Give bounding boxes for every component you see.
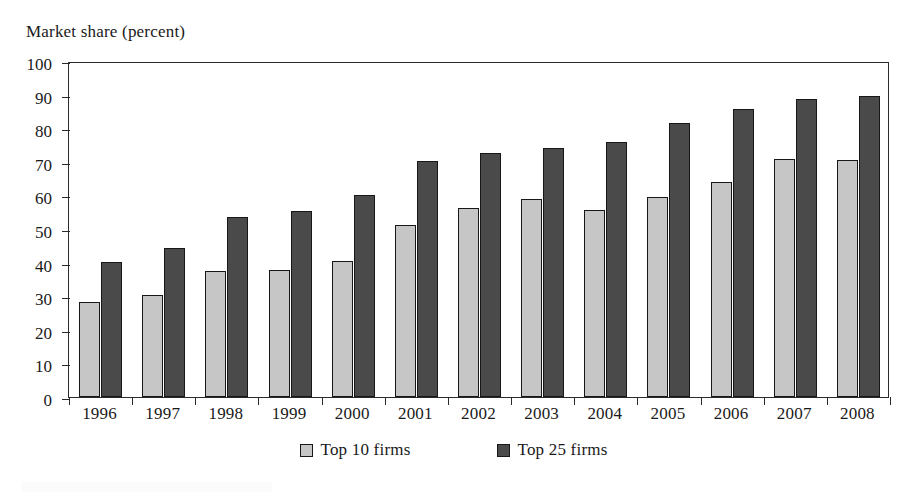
y-tick-mark: 100 [62, 63, 70, 64]
bar [205, 271, 226, 397]
x-tick-mark [448, 397, 449, 405]
y-tick-label: 100 [27, 56, 53, 73]
y-tick-mark: 50 [62, 231, 70, 232]
bar [837, 160, 858, 397]
x-tick-mark [132, 397, 133, 405]
x-tick-label: 2002 [461, 404, 496, 424]
x-tick-label: 2000 [335, 404, 370, 424]
x-tick-mark [258, 397, 259, 405]
legend-swatch-icon [497, 444, 510, 457]
x-tick-label: 2004 [587, 404, 622, 424]
x-tick-mark [322, 397, 323, 405]
y-tick-mark: 40 [62, 265, 70, 266]
bar [733, 109, 754, 397]
y-tick-label: 10 [35, 358, 52, 375]
y-tick-mark: 30 [62, 298, 70, 299]
plot-area: 0102030405060708090100 [68, 62, 889, 398]
bar [711, 182, 732, 397]
bar [647, 197, 668, 397]
bar [859, 96, 880, 397]
bar [480, 153, 501, 397]
x-tick-label: 2005 [651, 404, 686, 424]
chart-legend: Top 10 firmsTop 25 firms [0, 440, 907, 460]
y-tick-label: 0 [44, 392, 53, 409]
y-tick-mark: 10 [62, 365, 70, 366]
legend-item: Top 25 firms [497, 440, 608, 460]
x-tick-label: 1998 [208, 404, 243, 424]
x-tick-label: 2007 [777, 404, 812, 424]
bar [227, 217, 248, 397]
bar [543, 148, 564, 397]
bar [101, 262, 122, 397]
bar [291, 211, 312, 397]
legend-swatch-icon [300, 444, 313, 457]
x-tick-label: 2001 [398, 404, 433, 424]
y-tick-label: 50 [35, 224, 52, 241]
y-tick-label: 70 [35, 156, 52, 173]
x-tick-label: 2008 [840, 404, 875, 424]
x-tick-mark [827, 397, 828, 405]
y-tick-mark: 20 [62, 332, 70, 333]
y-tick-label: 60 [35, 190, 52, 207]
bar [269, 270, 290, 397]
y-axis-caption: Market share (percent) [26, 22, 185, 42]
bar [142, 295, 163, 397]
y-tick-label: 80 [35, 123, 52, 140]
legend-label: Top 10 firms [321, 440, 411, 460]
bar [521, 199, 542, 397]
y-tick-label: 30 [35, 291, 52, 308]
x-tick-label: 2003 [524, 404, 559, 424]
bar [354, 195, 375, 397]
x-tick-mark [764, 397, 765, 405]
bar [417, 161, 438, 397]
x-tick-mark [69, 397, 70, 405]
x-tick-label: 1996 [82, 404, 117, 424]
x-tick-label: 1997 [145, 404, 180, 424]
x-tick-mark [385, 397, 386, 405]
x-tick-mark [195, 397, 196, 405]
bar [332, 261, 353, 397]
y-tick-label: 20 [35, 324, 52, 341]
bar [584, 210, 605, 397]
bar [395, 225, 416, 397]
scan-artifact [22, 482, 272, 492]
y-tick-mark: 90 [62, 97, 70, 98]
x-tick-mark [701, 397, 702, 405]
bar [796, 99, 817, 397]
y-tick-label: 40 [35, 257, 52, 274]
x-tick-mark [574, 397, 575, 405]
bar [458, 208, 479, 397]
bar [774, 159, 795, 397]
x-tick-label: 2006 [714, 404, 749, 424]
x-tick-label: 1999 [272, 404, 307, 424]
legend-label: Top 25 firms [518, 440, 608, 460]
x-tick-mark [511, 397, 512, 405]
bar [79, 302, 100, 397]
x-tick-mark [890, 397, 891, 405]
bar-chart-figure: Market share (percent) 01020304050607080… [0, 0, 907, 498]
cut-off-title-strip [0, 0, 907, 14]
y-tick-mark: 80 [62, 130, 70, 131]
bar [606, 142, 627, 397]
legend-item: Top 10 firms [300, 440, 411, 460]
x-tick-mark [637, 397, 638, 405]
y-tick-mark: 70 [62, 164, 70, 165]
y-tick-mark: 60 [62, 197, 70, 198]
y-tick-label: 90 [35, 89, 52, 106]
bar [164, 248, 185, 397]
bar [669, 123, 690, 398]
